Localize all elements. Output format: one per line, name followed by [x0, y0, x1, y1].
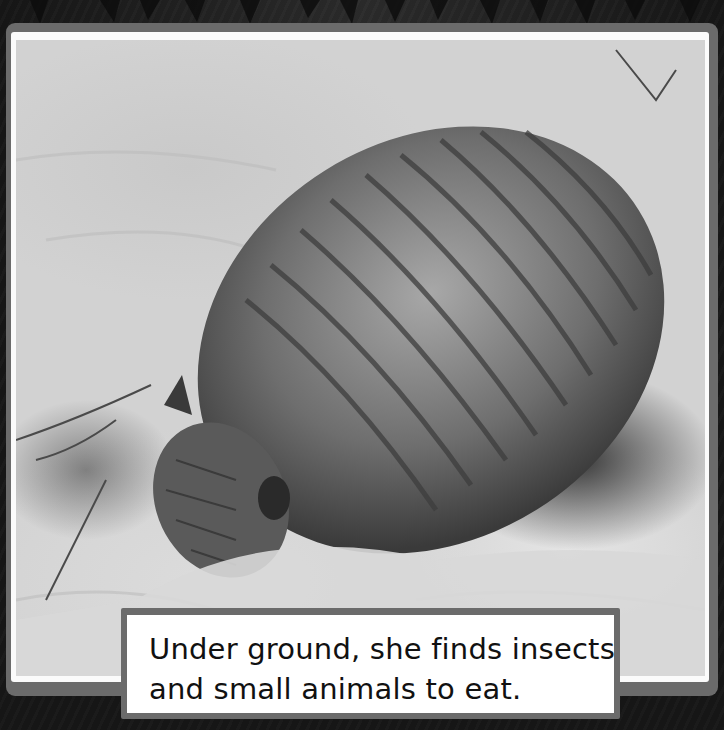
caption-line-1: Under ground, she finds insects [149, 629, 614, 669]
armadillo-illustration [16, 40, 705, 676]
caption-text-area: Under ground, she finds insects and smal… [127, 615, 614, 713]
armadillo-photo [16, 40, 705, 676]
caption-line-2: and small animals to eat. [149, 669, 614, 709]
caption-box: Under ground, she finds insects and smal… [121, 608, 620, 719]
